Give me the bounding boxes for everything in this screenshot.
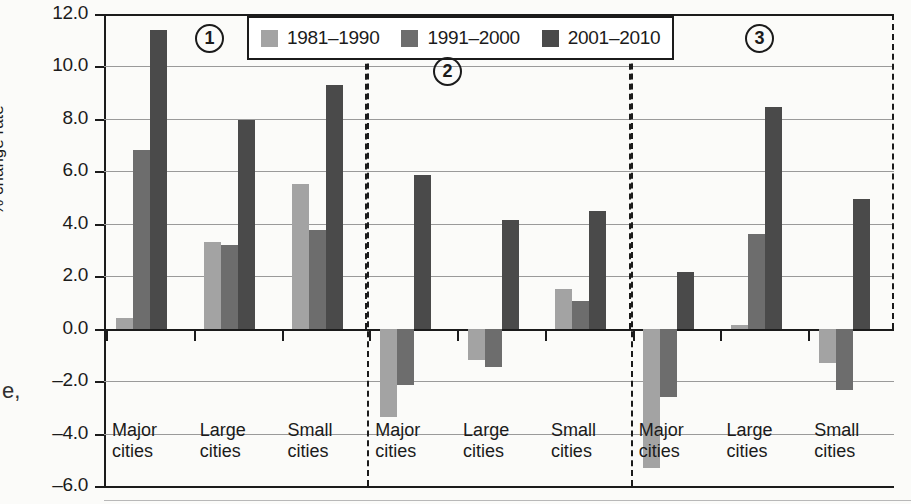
y-tick-mark bbox=[95, 276, 104, 278]
y-tick-mark bbox=[95, 329, 104, 331]
bar bbox=[468, 329, 485, 360]
bar bbox=[765, 107, 782, 329]
bar bbox=[292, 184, 309, 328]
category-tick bbox=[282, 329, 284, 341]
bar bbox=[326, 85, 343, 329]
panel-separator bbox=[367, 14, 369, 486]
panel-inner-rail bbox=[629, 14, 631, 329]
panel-inner-rail bbox=[365, 14, 367, 329]
category-label-line2: cities bbox=[639, 441, 684, 462]
category-label-line2: cities bbox=[463, 441, 509, 462]
category-label-line1: Large bbox=[463, 420, 509, 441]
y-tick-label: 4.0 bbox=[0, 212, 88, 234]
bar bbox=[150, 30, 167, 329]
bar bbox=[589, 211, 606, 329]
y-tick-label: –4.0 bbox=[0, 422, 88, 444]
category-label-line2: cities bbox=[112, 441, 157, 462]
category-label-line1: Small bbox=[551, 420, 596, 441]
figure-bottom-rule bbox=[104, 500, 911, 501]
category-label-line1: Major bbox=[112, 420, 157, 441]
bar bbox=[309, 230, 326, 328]
bar bbox=[748, 234, 765, 328]
category-tick bbox=[808, 329, 810, 341]
chart-figure: e, 12.010.08.06.04.02.00.0–2.0–4.0–6.0 %… bbox=[0, 0, 911, 504]
bar bbox=[414, 175, 431, 328]
legend-item: 1991–2000 bbox=[401, 27, 519, 49]
category-label: Smallcities bbox=[288, 420, 333, 462]
y-tick-mark bbox=[95, 66, 104, 68]
category-label: Majorcities bbox=[639, 420, 684, 462]
plot-frame-bottom bbox=[104, 486, 894, 488]
category-label: Smallcities bbox=[551, 420, 596, 462]
bar bbox=[221, 245, 238, 329]
panel-badge-2: 2 bbox=[433, 57, 462, 86]
category-label: Largecities bbox=[726, 420, 772, 462]
category-label: Largecities bbox=[463, 420, 509, 462]
y-tick-mark bbox=[95, 14, 104, 16]
y-tick-label: 12.0 bbox=[0, 2, 88, 24]
bar bbox=[397, 329, 414, 385]
y-tick-label: 8.0 bbox=[0, 107, 88, 129]
bar bbox=[485, 329, 502, 367]
bar bbox=[204, 242, 221, 329]
y-tick-mark bbox=[95, 486, 104, 488]
category-label-line2: cities bbox=[551, 441, 596, 462]
bar bbox=[677, 272, 694, 328]
bar bbox=[819, 329, 836, 363]
panel-badge-3: 3 bbox=[745, 24, 774, 53]
y-tick-label: 10.0 bbox=[0, 54, 88, 76]
category-tick bbox=[545, 329, 547, 341]
category-label-line2: cities bbox=[200, 441, 246, 462]
y-tick-label: 6.0 bbox=[0, 159, 88, 181]
legend-item: 2001–2010 bbox=[542, 27, 660, 49]
category-tick bbox=[633, 329, 635, 341]
panel-badge-1: 1 bbox=[195, 24, 224, 53]
bar bbox=[853, 199, 870, 329]
bar bbox=[380, 329, 397, 417]
bar bbox=[555, 289, 572, 328]
y-tick-label: 0.0 bbox=[0, 317, 88, 339]
category-label: Majorcities bbox=[375, 420, 420, 462]
category-label: Majorcities bbox=[112, 420, 157, 462]
gridline bbox=[104, 381, 894, 382]
legend-label: 1991–2000 bbox=[427, 27, 519, 49]
category-tick bbox=[720, 329, 722, 341]
category-label: Largecities bbox=[200, 420, 246, 462]
legend-swatch-icon bbox=[401, 30, 418, 47]
y-tick-mark bbox=[95, 381, 104, 383]
category-label-line1: Large bbox=[726, 420, 772, 441]
legend-label: 1981–1990 bbox=[287, 27, 379, 49]
category-label-line1: Small bbox=[288, 420, 333, 441]
legend-label: 2001–2010 bbox=[568, 27, 660, 49]
legend-swatch-icon bbox=[261, 30, 278, 47]
category-tick bbox=[194, 329, 196, 341]
category-label-line1: Small bbox=[814, 420, 859, 441]
category-tick bbox=[106, 329, 108, 341]
category-tick bbox=[369, 329, 371, 341]
y-tick-mark bbox=[95, 434, 104, 436]
bar bbox=[133, 150, 150, 328]
bar bbox=[502, 220, 519, 329]
y-tick-mark bbox=[95, 171, 104, 173]
bar bbox=[238, 120, 255, 328]
y-axis-title: % change rate bbox=[0, 70, 8, 250]
category-label-line2: cities bbox=[726, 441, 772, 462]
legend-swatch-icon bbox=[542, 30, 559, 47]
bar bbox=[731, 325, 748, 329]
plot-area bbox=[104, 14, 894, 486]
category-label-line2: cities bbox=[288, 441, 333, 462]
y-tick-mark bbox=[95, 119, 104, 121]
y-tick-mark bbox=[95, 224, 104, 226]
bar bbox=[660, 329, 677, 397]
y-tick-label: –6.0 bbox=[0, 474, 88, 496]
category-label: Smallcities bbox=[814, 420, 859, 462]
chart-legend: 1981–19901991–20002001–2010 bbox=[247, 16, 674, 60]
category-label-line2: cities bbox=[375, 441, 420, 462]
y-tick-label: 2.0 bbox=[0, 264, 88, 286]
category-label-line1: Major bbox=[375, 420, 420, 441]
bar bbox=[836, 329, 853, 391]
panel-separator bbox=[631, 14, 633, 486]
panel-inner-rail bbox=[892, 14, 894, 329]
bar bbox=[572, 301, 589, 329]
gridline bbox=[104, 66, 894, 67]
